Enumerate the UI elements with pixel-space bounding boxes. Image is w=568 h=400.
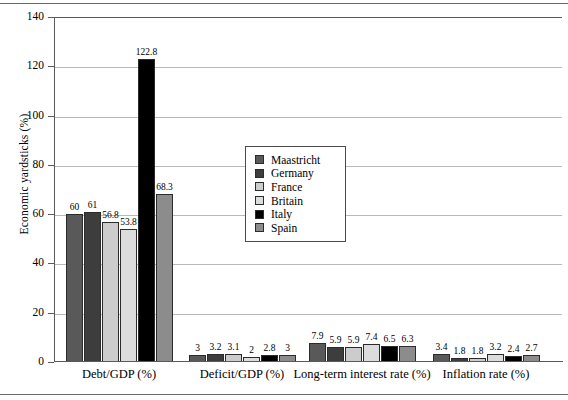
- bar-value-label: 3.2: [210, 342, 222, 352]
- legend-item-label: Italy: [271, 208, 292, 220]
- bar[interactable]: [363, 344, 380, 362]
- legend-item-label: Maastricht: [271, 154, 320, 166]
- bar-value-label: 2.4: [508, 344, 520, 354]
- bar-slot: 6.5: [381, 18, 398, 362]
- bar-slot: 5.9: [345, 18, 362, 362]
- bar-slot: 53.8: [120, 18, 137, 362]
- bar-slot: 2.7: [523, 18, 540, 362]
- bar-value-label: 68.3: [156, 182, 173, 192]
- bar-value-label: 7.9: [312, 331, 324, 341]
- y-tick-label: 40: [0, 257, 44, 268]
- bar-value-label: 60: [70, 202, 80, 212]
- bar-slot: 3.1: [225, 18, 242, 362]
- bar-group-bars: 3.41.81.83.22.42.7: [433, 18, 541, 362]
- bar-group: 3.41.81.83.22.42.7: [433, 18, 541, 362]
- legend-item-label: Germany: [271, 167, 314, 179]
- legend-swatch-icon: [255, 210, 264, 219]
- bar-slot: 2.4: [505, 18, 522, 362]
- bar-slot: 3.2: [207, 18, 224, 362]
- bar-slot: 56.8: [102, 18, 119, 362]
- bar-value-label: 3.1: [228, 342, 240, 352]
- bar[interactable]: [399, 346, 416, 362]
- bar-slot: 122.8: [138, 18, 155, 362]
- bottom-divider-rule: [0, 394, 568, 395]
- bar-slot: 1.8: [451, 18, 468, 362]
- x-axis-line: [54, 361, 563, 362]
- bar[interactable]: [381, 346, 398, 362]
- bar-value-label: 2.8: [264, 343, 276, 353]
- bar-value-label: 2.7: [526, 343, 538, 353]
- plot-area: 606156.853.8122.868.333.23.122.837.95.95…: [54, 17, 562, 362]
- bar[interactable]: [84, 212, 101, 362]
- y-tick-label: 100: [0, 110, 44, 121]
- y-tick-label: 140: [0, 11, 44, 22]
- bar[interactable]: [309, 343, 326, 362]
- legend-item-label: Britain: [271, 195, 303, 207]
- legend-item[interactable]: Italy: [255, 207, 337, 221]
- bar-value-label: 3.4: [436, 342, 448, 352]
- bar-value-label: 5.9: [330, 335, 342, 345]
- legend-box: MaastrichtGermanyFranceBritainItalySpain: [245, 146, 346, 242]
- bar-slot: 1.8: [469, 18, 486, 362]
- legend-swatch-icon: [255, 196, 264, 205]
- legend-item[interactable]: Spain: [255, 221, 337, 235]
- bar-slot: 60: [66, 18, 83, 362]
- bar-slot: 6.3: [399, 18, 416, 362]
- bar-value-label: 56.8: [102, 210, 119, 220]
- bar-value-label: 1.8: [454, 346, 466, 356]
- bar-slot: 3.4: [433, 18, 450, 362]
- y-tick-label: 80: [0, 159, 44, 170]
- bar-value-label: 7.4: [366, 332, 378, 342]
- bar[interactable]: [138, 59, 155, 362]
- bar-value-label: 3.2: [490, 342, 502, 352]
- legend-item[interactable]: France: [255, 180, 337, 194]
- legend-swatch-icon: [255, 182, 264, 191]
- bar-slot: 3: [189, 18, 206, 362]
- bar[interactable]: [120, 229, 137, 362]
- y-tick-mark: [48, 362, 54, 363]
- bar-value-label: 122.8: [136, 47, 157, 57]
- x-category-label: Inflation rate (%): [412, 367, 560, 381]
- bar-value-label: 3: [285, 343, 290, 353]
- bar-value-label: 6.5: [384, 334, 396, 344]
- legend-swatch-icon: [255, 223, 264, 232]
- bar[interactable]: [345, 347, 362, 362]
- bar-slot: 68.3: [156, 18, 173, 362]
- bar-chart-figure: Economic yardsticks (%) 0204060801001201…: [0, 0, 568, 400]
- bar-slot: 7.4: [363, 18, 380, 362]
- legend-swatch-icon: [255, 169, 264, 178]
- bar[interactable]: [66, 214, 83, 362]
- bar-value-label: 53.8: [120, 217, 137, 227]
- bar[interactable]: [327, 347, 344, 362]
- bar-value-label: 5.9: [348, 335, 360, 345]
- top-divider-rule: [0, 3, 568, 4]
- bar-value-label: 2: [249, 345, 254, 355]
- bar-group: 606156.853.8122.868.3: [66, 18, 174, 362]
- y-axis-title: Economic yardsticks (%): [18, 64, 30, 284]
- bar-value-label: 1.8: [472, 346, 484, 356]
- bar-slot: 61: [84, 18, 101, 362]
- legend-item[interactable]: Britain: [255, 194, 337, 208]
- bar-value-label: 6.3: [402, 334, 414, 344]
- y-tick-label: 60: [0, 208, 44, 219]
- bar[interactable]: [156, 194, 173, 362]
- y-tick-label: 120: [0, 60, 44, 71]
- y-tick-label: 0: [0, 356, 44, 367]
- bar-group-bars: 606156.853.8122.868.3: [66, 18, 174, 362]
- legend-item-label: France: [271, 181, 302, 193]
- bar-value-label: 61: [88, 200, 98, 210]
- bar[interactable]: [102, 222, 119, 362]
- bar-value-label: 3: [195, 343, 200, 353]
- legend-item[interactable]: Germany: [255, 167, 337, 181]
- bar-slot: 3.2: [487, 18, 504, 362]
- y-tick-label: 20: [0, 307, 44, 318]
- legend-item[interactable]: Maastricht: [255, 153, 337, 167]
- legend-item-label: Spain: [271, 222, 297, 234]
- legend-swatch-icon: [255, 155, 264, 164]
